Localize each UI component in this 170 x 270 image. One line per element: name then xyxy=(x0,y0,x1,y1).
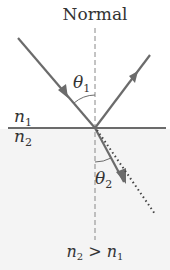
index-condition-label: n2 > n1 xyxy=(67,242,124,262)
refraction-diagram: Normal θ1 θ2 n1 n2 n2 > n1 xyxy=(0,0,170,270)
theta1-label: θ1 xyxy=(73,72,90,95)
theta1-arc xyxy=(74,95,95,103)
reflected-ray xyxy=(95,55,150,128)
normal-title: Normal xyxy=(63,4,128,24)
